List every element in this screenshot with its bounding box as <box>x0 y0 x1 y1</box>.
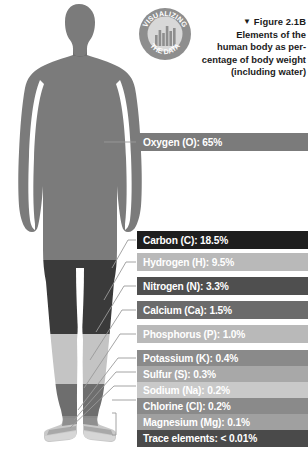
element-label-potassium: Potassium (K): 0.4% <box>143 353 238 364</box>
element-band-sulfur[interactable]: Sulfur (S): 0.3% <box>137 366 308 382</box>
caption-line-1: Elements of the <box>186 29 306 42</box>
body-zone-foot-stripe-1 <box>0 422 160 426</box>
caption-line-2: human body as per- <box>186 41 306 54</box>
element-label-oxygen: Oxygen (O): 65% <box>143 137 222 148</box>
element-band-potassium[interactable]: Potassium (K): 0.4% <box>137 350 308 366</box>
body-zone-foot-stripe-2 <box>0 426 160 429</box>
caption-line-4: (including water) <box>186 66 306 79</box>
element-label-nitrogen: Nitrogen (N): 3.3% <box>143 281 229 292</box>
figure-caption: ▼ Figure 2.1B Elements of the human body… <box>186 16 306 79</box>
figure-2-1b: VISUALIZING THE DATA ▼ Figure 2.1B Eleme… <box>0 0 308 450</box>
element-band-nitrogen[interactable]: Nitrogen (N): 3.3% <box>137 277 308 295</box>
body-zone-ankles <box>0 416 160 422</box>
element-band-carbon[interactable]: Carbon (C): 18.5% <box>137 231 308 249</box>
element-band-magnesium[interactable]: Magnesium (Mg): 0.1% <box>137 414 308 430</box>
element-label-magnesium: Magnesium (Mg): 0.1% <box>143 417 250 428</box>
human-body-silhouette <box>0 0 160 450</box>
element-band-chlorine[interactable]: Chlorine (Cl): 0.2% <box>137 398 308 414</box>
element-band-sodium[interactable]: Sodium (Na): 0.2% <box>137 382 308 398</box>
caption-title: ▼ Figure 2.1B <box>186 16 306 29</box>
element-label-sulfur: Sulfur (S): 0.3% <box>143 369 216 380</box>
element-band-calcium[interactable]: Calcium (Ca): 1.5% <box>137 301 308 319</box>
right-foot <box>83 418 116 442</box>
element-band-hydrogen[interactable]: Hydrogen (H): 9.5% <box>137 253 308 271</box>
element-band-phosphorus[interactable]: Phosphorus (P): 1.0% <box>137 325 308 343</box>
caption-line-3: centage of body weight <box>186 54 306 67</box>
element-label-calcium: Calcium (Ca): 1.5% <box>143 305 232 316</box>
element-label-carbon: Carbon (C): 18.5% <box>143 235 228 246</box>
element-label-phosphorus: Phosphorus (P): 1.0% <box>143 329 245 340</box>
element-label-trace: Trace elements: < 0.01% <box>143 433 257 444</box>
element-band-trace[interactable]: Trace elements: < 0.01% <box>137 430 308 447</box>
element-label-hydrogen: Hydrogen (H): 9.5% <box>143 257 234 268</box>
left-foot <box>44 418 77 442</box>
caption-triangle-icon: ▼ <box>243 17 251 26</box>
element-label-sodium: Sodium (Na): 0.2% <box>143 385 230 396</box>
element-band-oxygen[interactable]: Oxygen (O): 65% <box>137 133 308 151</box>
element-label-chlorine: Chlorine (Cl): 0.2% <box>143 401 231 412</box>
visualizing-the-data-badge: VISUALIZING THE DATA <box>137 6 193 62</box>
